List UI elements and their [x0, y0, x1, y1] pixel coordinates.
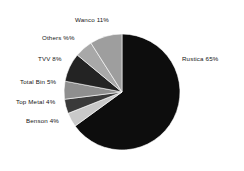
- slice-label-tvv: TVV 8%: [38, 55, 62, 62]
- slice-label-benson: Benson 4%: [26, 117, 59, 124]
- slice-label-others: Others %%: [42, 34, 75, 41]
- slice-label-wanco: Wanco 11%: [75, 16, 109, 23]
- slice-label-total-bin: Total Bin 5%: [20, 78, 56, 85]
- pie-slices-group: [64, 34, 180, 150]
- slice-label-rustica: Rustica 65%: [182, 55, 218, 62]
- pie-chart: Rustica 65% Benson 4% Top Metal 4% Total…: [0, 0, 244, 171]
- slice-label-top-metal: Top Metal 4%: [16, 98, 55, 105]
- pie-chart-canvas: [0, 0, 244, 171]
